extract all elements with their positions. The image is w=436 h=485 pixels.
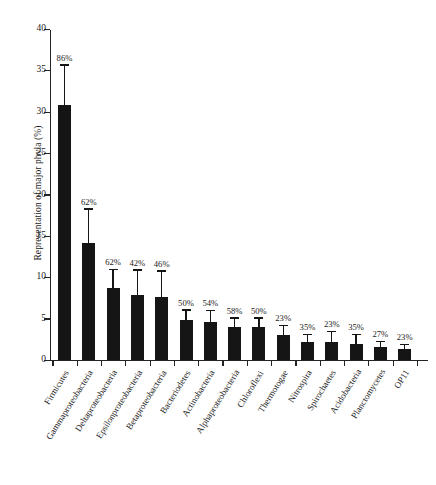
x-tick-mark — [344, 361, 345, 366]
error-bar-cap — [84, 208, 93, 209]
x-tick-mark — [77, 361, 78, 366]
error-bar-line — [185, 311, 186, 324]
bar — [252, 327, 265, 360]
error-bar-line — [234, 319, 235, 330]
bar — [131, 295, 144, 360]
y-axis-line — [50, 30, 51, 361]
error-bar-cap — [376, 341, 385, 342]
bar-value-label: 46% — [145, 259, 179, 269]
error-bar-cap — [133, 269, 142, 270]
x-tick-mark — [198, 361, 199, 366]
bar-chart-figure: Representation of major phyla (%) 051015… — [0, 0, 436, 485]
error-bar-cap — [109, 269, 118, 270]
y-tick-label: 10 — [37, 271, 47, 281]
error-bar-line — [112, 270, 113, 291]
x-tick-mark — [174, 361, 175, 366]
x-tick-mark — [368, 361, 369, 366]
x-tick-mark — [247, 361, 248, 366]
y-tick-label: 30 — [37, 106, 47, 116]
y-tick-label: 20 — [37, 189, 47, 199]
error-bar-line — [331, 332, 332, 345]
error-bar-line — [137, 271, 138, 299]
error-bar-cap — [206, 310, 215, 311]
error-bar-cap — [352, 334, 361, 335]
bar — [155, 297, 168, 360]
bar — [180, 320, 193, 360]
x-tick-mark — [101, 361, 102, 366]
bar — [107, 288, 120, 360]
y-tick-label: 15 — [37, 230, 47, 240]
error-bar-cap — [157, 270, 166, 271]
y-tick-label: 5 — [41, 313, 46, 323]
bar-value-label: 86% — [48, 53, 82, 63]
bar — [58, 105, 71, 360]
y-tick-label: 35 — [37, 64, 47, 74]
x-tick-mark — [417, 361, 418, 366]
x-tick-mark — [125, 361, 126, 366]
error-bar-cap — [327, 331, 336, 332]
error-bar-line — [283, 326, 284, 338]
error-bar-line — [258, 319, 259, 330]
x-tick-mark — [295, 361, 296, 366]
plot-area: 0510152025303540 86%62%62%42%46%50%54%58… — [50, 30, 428, 361]
error-bar-cap — [303, 334, 312, 335]
error-bar-line — [88, 210, 89, 247]
x-tick-mark — [150, 361, 151, 366]
x-tick-mark — [320, 361, 321, 366]
x-tick-mark — [393, 361, 394, 366]
x-category-label: OP11 — [392, 368, 411, 390]
error-bar-line — [307, 335, 308, 344]
x-category-label-text: OP11 — [392, 368, 411, 390]
bar-value-label: 62% — [72, 197, 106, 207]
error-bar-line — [210, 311, 211, 325]
error-bar-cap — [400, 344, 409, 345]
error-bar-cap — [279, 325, 288, 326]
y-tick-label: 0 — [41, 354, 46, 364]
bar-value-label: 23% — [388, 332, 422, 342]
bar — [204, 322, 217, 360]
x-tick-mark — [222, 361, 223, 366]
error-bar-line — [404, 345, 405, 352]
error-bar-cap — [230, 317, 239, 318]
bar — [228, 327, 241, 360]
y-tick-label: 25 — [37, 147, 47, 157]
bar — [82, 243, 95, 360]
error-bar-line — [64, 66, 65, 109]
error-bar-line — [161, 272, 162, 300]
error-bar-cap — [182, 309, 191, 310]
error-bar-cap — [254, 317, 263, 318]
bar — [277, 335, 290, 360]
y-tick-label: 40 — [37, 23, 47, 33]
error-bar-line — [380, 342, 381, 350]
error-bar-cap — [60, 64, 69, 65]
x-tick-mark — [271, 361, 272, 366]
error-bar-line — [355, 335, 356, 347]
x-tick-mark — [52, 361, 53, 366]
